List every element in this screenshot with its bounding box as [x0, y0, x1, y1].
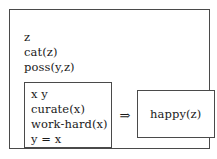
antecedent-line-work-hard: work-hard(x) — [31, 117, 111, 132]
context-line-cat: cat(z) — [24, 45, 134, 60]
rule-outer-box: z cat(z) poss(y,z) x y curate(x) work-ha… — [9, 9, 210, 149]
antecedent-line-variables: x y — [31, 87, 111, 102]
antecedent-line-curate: curate(x) — [31, 102, 111, 117]
antecedent-box: x y curate(x) work-hard(x) y = x — [24, 82, 112, 148]
consequent-box: happy(z) — [137, 90, 215, 138]
antecedent-line-equality: y = x — [31, 132, 111, 147]
implies-arrow-icon: ⇒ — [116, 82, 134, 148]
context-line-variable: z — [24, 30, 134, 45]
context-line-poss: poss(y,z) — [24, 60, 134, 75]
implication-row: x y curate(x) work-hard(x) y = x ⇒ happy… — [24, 82, 212, 148]
consequent-line-happy: happy(z) — [150, 107, 201, 122]
context-term-list: z cat(z) poss(y,z) — [24, 30, 134, 75]
